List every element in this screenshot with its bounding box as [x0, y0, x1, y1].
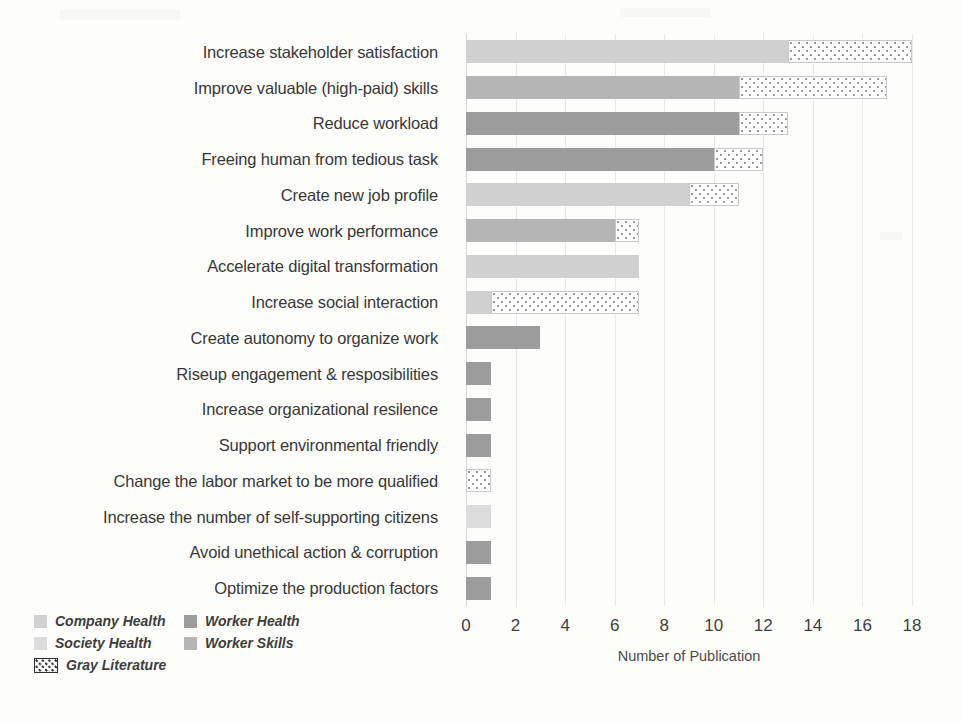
category-label-row: Increase the number of self-supporting c… [0, 499, 452, 535]
category-label-row: Support environmental friendly [0, 427, 452, 463]
legend-swatch-icon [34, 637, 47, 650]
bar-row[interactable] [466, 183, 912, 206]
legend-swatch-icon [184, 637, 197, 650]
category-label: Change the labor market to be more quali… [113, 472, 438, 490]
gridline-18 [912, 34, 913, 606]
bar-row[interactable] [466, 76, 912, 99]
x-axis-title: Number of Publication [466, 648, 912, 664]
bar-row[interactable] [466, 434, 912, 457]
bar-segment[interactable] [788, 40, 912, 63]
legend-label: Society Health [55, 635, 151, 651]
category-label: Create autonomy to organize work [191, 329, 438, 347]
bar-segment[interactable] [466, 398, 491, 421]
bar-row[interactable] [466, 362, 912, 385]
x-tick-label: 14 [803, 616, 822, 636]
bar-row[interactable] [466, 541, 912, 564]
category-label-row: Optimize the production factors [0, 570, 452, 606]
category-label-row: Freeing human from tedious task [0, 141, 452, 177]
bar-segment[interactable] [466, 112, 739, 135]
category-label: Support environmental friendly [219, 436, 438, 454]
bar-row[interactable] [466, 40, 912, 63]
x-tick-label: 16 [853, 616, 872, 636]
category-label: Freeing human from tedious task [201, 150, 438, 168]
legend-item[interactable]: Worker Health [184, 613, 354, 629]
category-label-row: Reduce workload [0, 106, 452, 142]
bar-row[interactable] [466, 469, 912, 492]
category-label: Accelerate digital transformation [207, 257, 438, 275]
bar-segment[interactable] [714, 148, 764, 171]
plot-area [466, 34, 912, 606]
chart-legend: Company HealthWorker HealthSociety Healt… [34, 610, 434, 676]
bar-segment[interactable] [466, 291, 491, 314]
x-tick-label: 10 [704, 616, 723, 636]
bar-segment[interactable] [615, 219, 640, 242]
bar-row[interactable] [466, 577, 912, 600]
horizontal-bar-chart: Increase stakeholder satisfactionImprove… [0, 0, 962, 722]
bar-segment[interactable] [466, 434, 491, 457]
x-tick-label: 4 [560, 616, 569, 636]
legend-label: Gray Literature [66, 657, 166, 673]
bar-segment[interactable] [466, 148, 714, 171]
legend-swatch-icon [34, 615, 47, 628]
bar-segment[interactable] [466, 326, 540, 349]
category-label-row: Create autonomy to organize work [0, 320, 452, 356]
x-tick-label: 12 [754, 616, 773, 636]
x-tick-label: 2 [511, 616, 520, 636]
category-label: Reduce workload [313, 114, 438, 132]
legend-swatch-icon [184, 615, 197, 628]
legend-item[interactable]: Gray Literature [34, 657, 354, 673]
category-label: Create new job profile [281, 186, 438, 204]
legend-item[interactable]: Worker Skills [184, 635, 354, 651]
category-label-row: Accelerate digital transformation [0, 249, 452, 285]
bar-segment[interactable] [466, 255, 639, 278]
bar-row[interactable] [466, 505, 912, 528]
bar-row[interactable] [466, 398, 912, 421]
legend-label: Worker Skills [205, 635, 293, 651]
bar-segment[interactable] [466, 505, 491, 528]
bar-segment[interactable] [466, 40, 788, 63]
category-label: Improve work performance [245, 222, 438, 240]
legend-label: Company Health [55, 613, 165, 629]
x-tick-label: 0 [461, 616, 470, 636]
category-label: Improve valuable (high-paid) skills [194, 79, 438, 97]
category-label-row: Avoid unethical action & corruption [0, 535, 452, 571]
legend-item[interactable]: Company Health [34, 613, 184, 629]
bar-segment[interactable] [466, 541, 491, 564]
bar-segment[interactable] [689, 183, 739, 206]
bar-row[interactable] [466, 255, 912, 278]
category-label: Optimize the production factors [214, 579, 438, 597]
category-label-row: Increase organizational resilence [0, 392, 452, 428]
category-label-row: Improve valuable (high-paid) skills [0, 70, 452, 106]
bar-row[interactable] [466, 326, 912, 349]
bar-row[interactable] [466, 148, 912, 171]
bar-segment[interactable] [739, 112, 789, 135]
category-label-row: Increase stakeholder satisfaction [0, 34, 452, 70]
bar-segment[interactable] [466, 183, 689, 206]
legend-swatch-icon [34, 658, 58, 673]
category-label-row: Riseup engagement & resposibilities [0, 356, 452, 392]
legend-item[interactable]: Society Health [34, 635, 184, 651]
bar-row[interactable] [466, 291, 912, 314]
legend-label: Worker Health [205, 613, 300, 629]
scan-artifact [620, 8, 710, 17]
category-label-row: Create new job profile [0, 177, 452, 213]
bar-segment[interactable] [466, 577, 491, 600]
category-label: Increase stakeholder satisfaction [203, 43, 438, 61]
category-label: Increase social interaction [251, 293, 438, 311]
category-label: Increase the number of self-supporting c… [103, 508, 438, 526]
x-tick-label: 18 [903, 616, 922, 636]
category-label: Riseup engagement & resposibilities [176, 365, 438, 383]
bar-segment[interactable] [739, 76, 888, 99]
bar-segment[interactable] [466, 362, 491, 385]
bar-segment[interactable] [466, 469, 491, 492]
x-tick-label: 8 [659, 616, 668, 636]
bar-row[interactable] [466, 112, 912, 135]
bar-segment[interactable] [491, 291, 640, 314]
bar-segment[interactable] [466, 219, 615, 242]
category-label-row: Increase social interaction [0, 284, 452, 320]
bar-row[interactable] [466, 219, 912, 242]
category-axis: Increase stakeholder satisfactionImprove… [0, 34, 452, 606]
category-label: Avoid unethical action & corruption [189, 543, 438, 561]
category-label: Increase organizational resilence [202, 400, 438, 418]
bar-segment[interactable] [466, 76, 739, 99]
